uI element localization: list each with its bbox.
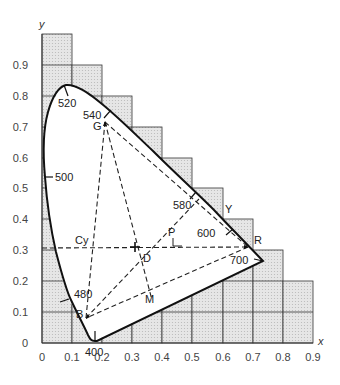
y-axis-label: y xyxy=(38,18,46,30)
diagram-svg: 400 480 500 520 540 580 600 700 G R B Y … xyxy=(0,0,340,385)
svg-text:0.8: 0.8 xyxy=(275,351,290,363)
label-B: B xyxy=(76,308,83,320)
svg-text:0.2: 0.2 xyxy=(94,351,109,363)
svg-text:0.7: 0.7 xyxy=(245,351,260,363)
svg-text:0.1: 0.1 xyxy=(64,351,79,363)
svg-text:0.5: 0.5 xyxy=(184,351,199,363)
svg-text:0.3: 0.3 xyxy=(13,244,28,256)
svg-text:0.4: 0.4 xyxy=(13,213,28,225)
svg-text:0.2: 0.2 xyxy=(13,275,28,287)
svg-text:0: 0 xyxy=(39,351,45,363)
label-G: G xyxy=(93,120,102,132)
wl-700: 700 xyxy=(230,254,248,266)
svg-text:0.6: 0.6 xyxy=(13,152,28,164)
label-D: D xyxy=(143,252,151,264)
svg-text:0.7: 0.7 xyxy=(13,121,28,133)
y-tick-labels: 0 0.1 0.2 0.3 0.4 0.5 0.6 0.7 0.8 0.9 xyxy=(13,59,28,349)
wl-480: 480 xyxy=(74,288,92,300)
svg-text:0.9: 0.9 xyxy=(305,351,320,363)
line-G-R xyxy=(105,122,248,247)
svg-text:0.8: 0.8 xyxy=(13,90,28,102)
wl-600: 600 xyxy=(197,227,215,239)
line-Cy-R xyxy=(42,247,248,248)
line-G-M xyxy=(105,122,152,300)
x-axis-label: x xyxy=(317,335,324,347)
label-M: M xyxy=(145,293,154,305)
svg-text:0: 0 xyxy=(22,337,28,349)
label-Cy: Cy xyxy=(75,234,89,246)
wl-520: 520 xyxy=(58,97,76,109)
svg-text:0.3: 0.3 xyxy=(124,351,139,363)
wl-500: 500 xyxy=(55,171,73,183)
svg-text:0.6: 0.6 xyxy=(215,351,230,363)
svg-text:0.4: 0.4 xyxy=(154,351,169,363)
svg-text:0.1: 0.1 xyxy=(13,306,28,318)
svg-text:0.5: 0.5 xyxy=(13,182,28,194)
P-leader xyxy=(173,238,182,246)
wl-580: 580 xyxy=(173,199,191,211)
label-Y: Y xyxy=(225,203,233,215)
chromaticity-diagram: 400 480 500 520 540 580 600 700 G R B Y … xyxy=(0,0,340,385)
svg-text:0.9: 0.9 xyxy=(13,59,28,71)
label-R: R xyxy=(254,234,262,246)
x-tick-labels: 0 0.1 0.2 0.3 0.4 0.5 0.6 0.7 0.8 0.9 xyxy=(39,351,321,363)
label-P: P xyxy=(168,226,175,238)
